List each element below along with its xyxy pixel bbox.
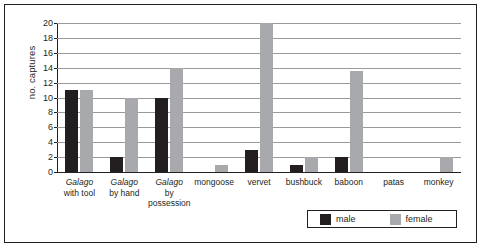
bar-male-6 <box>335 157 348 172</box>
gridline <box>57 112 461 113</box>
gridline <box>57 142 461 143</box>
plot-area <box>57 23 461 173</box>
legend-item-male: male <box>320 214 356 225</box>
gridline <box>57 83 461 84</box>
y-axis-tick-mark <box>54 83 57 84</box>
y-axis-tick-labels: 02468101214161820 <box>27 23 53 173</box>
gridline <box>57 127 461 128</box>
gridline <box>57 68 461 69</box>
legend-swatch-female <box>390 214 401 225</box>
y-axis-tick-label: 2 <box>33 153 53 162</box>
y-axis-tick-label: 16 <box>33 49 53 58</box>
gridline <box>57 38 461 39</box>
gridline <box>57 23 461 24</box>
bar-male-4 <box>245 150 258 172</box>
y-axis-tick-mark <box>54 157 57 158</box>
bar-male-1 <box>110 157 123 172</box>
bar-female-2 <box>170 68 183 172</box>
y-axis-tick-mark <box>54 112 57 113</box>
y-axis-tick-mark <box>54 98 57 99</box>
chart-container: no. captures 02468101214161820 male fema… <box>4 4 477 243</box>
y-axis-tick-label: 8 <box>33 108 53 117</box>
bar-male-5 <box>290 165 303 172</box>
bar-female-3 <box>215 165 228 172</box>
bar-female-0 <box>80 90 93 172</box>
x-axis-line <box>57 172 461 173</box>
y-axis-tick-label: 4 <box>33 138 53 147</box>
bar-female-6 <box>350 71 363 172</box>
y-axis-tick-label: 14 <box>33 64 53 73</box>
bar-female-5 <box>305 157 318 172</box>
y-axis-tick-label: 10 <box>33 94 53 103</box>
bar-female-4 <box>260 23 273 172</box>
y-axis-tick-label: 12 <box>33 79 53 88</box>
legend-swatch-male <box>320 214 331 225</box>
y-axis-tick-label: 6 <box>33 123 53 132</box>
gridline <box>57 98 461 99</box>
y-axis-tick-mark <box>54 23 57 24</box>
legend-label-female: female <box>406 214 433 224</box>
y-axis-tick-label: 18 <box>33 34 53 43</box>
bar-male-2 <box>155 98 168 173</box>
y-axis-tick-label: 20 <box>33 19 53 28</box>
y-axis-tick-mark <box>54 142 57 143</box>
chart-legend: male female <box>307 210 457 228</box>
y-axis-tick-mark <box>54 38 57 39</box>
y-axis-tick-label: 0 <box>33 168 53 177</box>
bar-female-1 <box>125 98 138 173</box>
y-axis-tick-mark <box>54 127 57 128</box>
x-axis-category-label: monkey <box>404 177 474 188</box>
y-axis-tick-mark <box>54 172 57 173</box>
bar-female-8 <box>440 157 453 172</box>
y-axis-tick-mark <box>54 53 57 54</box>
gridline <box>57 53 461 54</box>
legend-label-male: male <box>336 214 356 224</box>
y-axis-tick-mark <box>54 68 57 69</box>
legend-item-female: female <box>390 214 433 225</box>
bar-male-0 <box>65 90 78 172</box>
